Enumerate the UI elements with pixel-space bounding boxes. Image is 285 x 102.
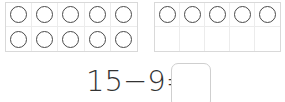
frame-cell [255, 3, 280, 27]
circle-counter-icon [159, 6, 176, 23]
frame-cell [58, 3, 84, 27]
frame-cell [155, 27, 180, 51]
circle-counter-icon [115, 31, 132, 48]
circle-counter-icon [62, 31, 79, 48]
circle-counter-icon [234, 6, 251, 23]
frame-cell [32, 27, 58, 51]
frame-cell [205, 27, 230, 51]
frame-cell [180, 3, 205, 27]
circle-counter-icon [89, 31, 106, 48]
frame-cell [58, 27, 84, 51]
ten-frame-left [5, 2, 138, 52]
circle-counter-icon [36, 6, 53, 23]
circle-counter-icon [62, 6, 79, 23]
circle-counter-icon [89, 6, 106, 23]
frame-cell [6, 27, 32, 51]
circle-counter-icon [36, 31, 53, 48]
circle-counter-icon [259, 6, 276, 23]
frame-cell [205, 3, 230, 27]
frame-cell [230, 3, 255, 27]
frame-cell [155, 3, 180, 27]
frame-cell [180, 27, 205, 51]
frame-cell [255, 27, 280, 51]
answer-input-box[interactable] [171, 63, 211, 102]
frame-cell [230, 27, 255, 51]
circle-counter-icon [10, 31, 27, 48]
circle-counter-icon [209, 6, 226, 23]
circle-counter-icon [184, 6, 201, 23]
ten-frame-right [154, 2, 281, 52]
frame-cell [111, 3, 137, 27]
frame-cell [111, 27, 137, 51]
circle-counter-icon [10, 6, 27, 23]
frame-cell [6, 3, 32, 27]
frame-cell [85, 27, 111, 51]
frame-cell [85, 3, 111, 27]
circle-counter-icon [115, 6, 132, 23]
frame-cell [32, 3, 58, 27]
